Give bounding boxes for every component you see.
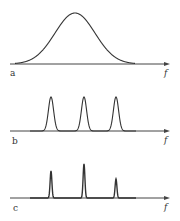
axis-arrow-c-icon bbox=[164, 196, 170, 200]
panel-label-a: a bbox=[10, 68, 16, 78]
panel-c: c f bbox=[10, 164, 170, 213]
axis-arrow-a-icon bbox=[164, 62, 170, 66]
panel-label-c: c bbox=[13, 203, 18, 213]
axis-label-f-b: f bbox=[163, 135, 169, 145]
axis-label-f-c: f bbox=[163, 202, 169, 212]
spectrum-curve-b bbox=[30, 97, 136, 131]
panel-label-b: b bbox=[12, 136, 18, 146]
axis-arrow-b-icon bbox=[164, 129, 170, 133]
spectrum-figure: a f b f c f bbox=[0, 0, 180, 221]
panel-a: a f bbox=[10, 13, 170, 78]
spectrum-curve-c bbox=[30, 164, 136, 198]
axis-label-f-a: f bbox=[163, 68, 169, 78]
spectrum-curve-a bbox=[15, 13, 135, 63]
panel-b: b f bbox=[10, 97, 170, 146]
